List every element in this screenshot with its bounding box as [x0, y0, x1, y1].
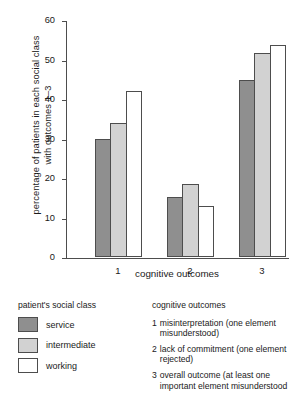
- x-axis-line: [66, 258, 289, 259]
- legend-label-working: working: [46, 361, 77, 371]
- y-axis-tick: 10: [62, 219, 67, 220]
- y-axis-tick-label: 20: [45, 173, 55, 183]
- cognitive-outcomes-legend: cognitive outcomes 1misinterpretation (o…: [152, 300, 300, 395]
- y-axis-tick-label: 50: [45, 55, 55, 65]
- y-axis-tick: 20: [62, 179, 67, 180]
- outcome-note-text: misinterpretation (one element misunders…: [160, 318, 300, 339]
- y-axis-tick-label: 30: [45, 134, 55, 144]
- social-class-legend-title: patient's social class: [18, 300, 148, 310]
- outcome-note-number: 1: [152, 318, 157, 339]
- social-class-legend-items: serviceintermediateworking: [18, 317, 148, 373]
- cognitive-outcomes-legend-items: 1misinterpretation (one element misunder…: [152, 318, 300, 392]
- legend-swatch-intermediate: [18, 338, 38, 353]
- legend-label-service: service: [46, 320, 75, 330]
- social-class-legend: patient's social class serviceintermedia…: [18, 300, 148, 379]
- legend-item-service: service: [18, 317, 148, 332]
- bar-working-2: [198, 206, 214, 257]
- bar-intermediate-2: [182, 184, 198, 257]
- bar-chart-figure: percentage of patients in each social cl…: [0, 0, 296, 296]
- legend-label-intermediate: intermediate: [46, 340, 96, 350]
- outcome-note-number: 3: [152, 370, 157, 391]
- bar-service-3: [239, 80, 255, 257]
- cognitive-outcomes-legend-title: cognitive outcomes: [152, 300, 300, 311]
- legend-item-working: working: [18, 358, 148, 373]
- bar-intermediate-3: [254, 53, 270, 257]
- x-axis-title: cognitive outcomes: [66, 268, 288, 279]
- y-axis-tick: 40: [62, 100, 67, 101]
- outcome-note-1: 1misinterpretation (one element misunder…: [152, 318, 300, 339]
- y-axis-tick-label: 60: [45, 15, 55, 25]
- bar-working-3: [270, 45, 286, 257]
- y-axis-tick: 0: [62, 258, 67, 259]
- plot-area: 0102030405060 123: [66, 21, 288, 258]
- y-axis-tick: 60: [62, 21, 67, 22]
- outcome-note-3: 3overall outcome (at least one important…: [152, 370, 300, 391]
- y-axis-tick: 50: [62, 61, 67, 62]
- y-axis-title-line-1: percentage of patients in each social cl…: [31, 36, 43, 215]
- bar-service-1: [95, 139, 111, 258]
- legend-swatch-service: [18, 317, 38, 332]
- outcome-note-text: lack of commitment (one element rejected…: [160, 344, 300, 365]
- bar-working-1: [126, 91, 142, 257]
- outcome-note-text: overall outcome (at least one important …: [160, 370, 300, 391]
- bar-service-2: [167, 197, 183, 257]
- legend-item-intermediate: intermediate: [18, 338, 148, 353]
- y-axis-tick-label: 40: [45, 94, 55, 104]
- outcome-note-number: 2: [152, 344, 157, 365]
- y-axis-tick-label: 0: [50, 252, 55, 262]
- y-axis-tick-label: 10: [45, 213, 55, 223]
- y-axis-tick: 30: [62, 140, 67, 141]
- y-axis-title: percentage of patients in each social cl…: [26, 3, 60, 248]
- legend-swatch-working: [18, 358, 38, 373]
- outcome-note-2: 2lack of commitment (one element rejecte…: [152, 344, 300, 365]
- legend-region: patient's social class serviceintermedia…: [0, 296, 296, 377]
- bar-intermediate-1: [110, 123, 126, 257]
